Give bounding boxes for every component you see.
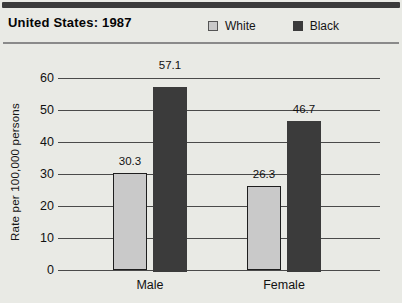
header-separator — [3, 42, 399, 44]
x-category-label-female: Female — [244, 278, 324, 292]
x-category-label-male: Male — [110, 278, 190, 292]
bar-value-label: 30.3 — [100, 155, 160, 168]
bar-value-label: 57.1 — [140, 59, 200, 72]
bar-male-white — [113, 173, 147, 270]
y-tick-label-0: 0 — [0, 264, 54, 277]
chart-title: United States: 1987 — [8, 15, 132, 30]
y-tick-label-20: 20 — [0, 200, 54, 213]
gridline-60 — [58, 78, 380, 79]
gridline-20 — [58, 206, 380, 207]
gridline-30 — [58, 174, 380, 175]
y-tick-label-30: 30 — [0, 168, 54, 181]
gridline-10 — [58, 238, 380, 239]
bar-female-white — [247, 186, 281, 270]
y-tick-label-50: 50 — [0, 104, 54, 117]
gridline-0 — [58, 270, 380, 271]
legend-label: Black — [310, 19, 339, 33]
legend-swatch-icon — [208, 21, 218, 31]
y-tick-label-60: 60 — [0, 72, 54, 85]
legend-item-white: White — [208, 19, 256, 33]
bar-value-label: 26.3 — [234, 168, 294, 181]
gridline-40 — [58, 142, 380, 143]
y-tick-label-40: 40 — [0, 136, 54, 149]
legend-label: White — [225, 19, 256, 33]
scanned-chart-card: United States: 1987 WhiteBlack Rate per … — [0, 0, 402, 303]
legend-swatch-icon — [293, 21, 303, 31]
legend-item-black: Black — [293, 19, 339, 33]
bar-male-black — [153, 87, 187, 272]
bar-female-black — [287, 121, 321, 272]
y-tick-label-10: 10 — [0, 232, 54, 245]
top-rule — [2, 2, 400, 8]
chart-legend: WhiteBlack — [208, 19, 339, 33]
bar-value-label: 46.7 — [274, 103, 334, 116]
